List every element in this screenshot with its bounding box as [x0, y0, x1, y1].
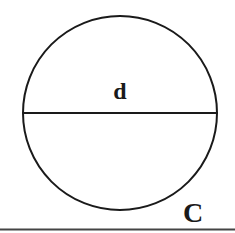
circumference-label: C [183, 197, 203, 228]
circle-diagram: d C [0, 0, 235, 233]
diameter-label: d [113, 78, 127, 104]
